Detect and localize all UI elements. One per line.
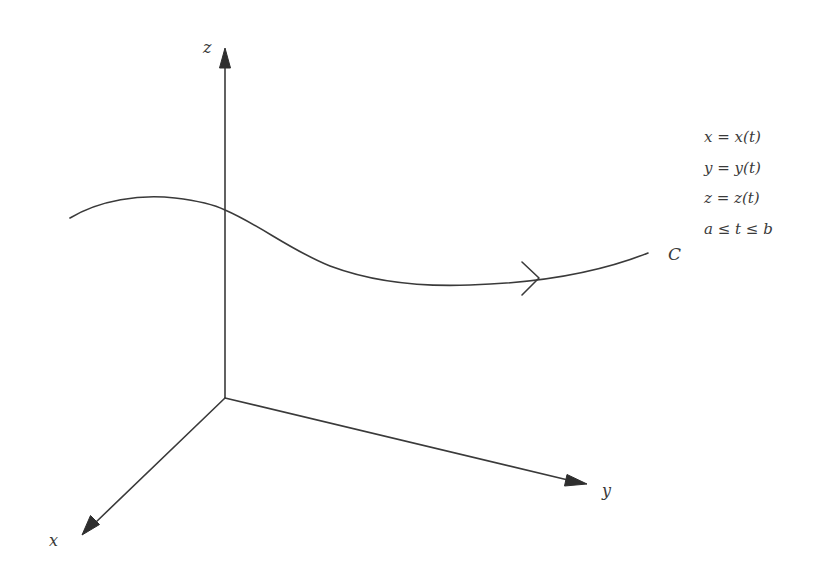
equation-y: y = y(t) (704, 159, 773, 190)
curve-c (70, 197, 648, 295)
parameter-range: a ≤ t ≤ b (704, 220, 773, 251)
x-axis-arrowhead-icon (82, 516, 100, 536)
equation-x: x = x(t) (704, 128, 773, 159)
direction-arrow-icon (522, 262, 539, 295)
y-axis-label: y (602, 483, 611, 499)
parametric-equations: x = x(t) y = y(t) z = z(t) a ≤ t ≤ b (704, 128, 773, 250)
x-axis-label: x (49, 533, 58, 549)
x-axis (82, 398, 225, 535)
z-axis-arrowhead-icon (220, 48, 231, 68)
y-axis (225, 398, 587, 486)
z-axis-label: z (203, 40, 211, 56)
diagram-canvas (0, 0, 820, 579)
y-axis-arrowhead-icon (565, 475, 588, 487)
z-axis (220, 48, 231, 398)
equation-z: z = z(t) (704, 189, 773, 220)
curve-label: C (668, 246, 681, 263)
